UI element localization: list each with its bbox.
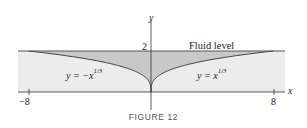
x-tick-label-8: 8: [271, 96, 276, 107]
fluid-level-label: Fluid level: [189, 40, 234, 51]
right-curve-equation: y = x: [197, 70, 218, 81]
right-curve-exponent: 1/3: [218, 67, 227, 75]
x-tick-label-neg8: −8: [19, 96, 30, 107]
left-curve-equation: y = −x: [66, 70, 93, 81]
figure-caption: FIGURE 12: [0, 112, 307, 122]
y-tick-label-2: 2: [142, 41, 147, 52]
x-axis-label: x: [288, 85, 292, 96]
right-curve-label: y = x1/3: [197, 70, 227, 81]
left-curve-exponent: 1/3: [93, 67, 102, 75]
y-axis-label: y: [149, 12, 153, 23]
left-curve-label: y = −x1/3: [66, 70, 102, 81]
fluid-level-diagram: [0, 0, 307, 128]
